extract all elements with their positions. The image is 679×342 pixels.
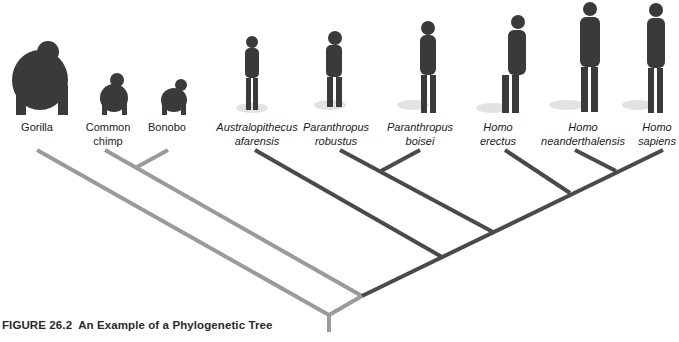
label-line1: Paranthropus: [303, 120, 369, 134]
paranthropus-boisei-illustration: [397, 21, 436, 113]
label-line1: Australopithecus: [216, 120, 297, 134]
common-chimp-illustration: [100, 73, 128, 115]
label-homo-erectus: Homo erectus: [480, 120, 516, 148]
figure-caption: FIGURE 26.2An Example of a Phylogenetic …: [2, 319, 273, 331]
label-line2: boisei: [387, 134, 453, 148]
label-homo-sapiens: Homo sapiens: [638, 120, 676, 148]
species-illustrations: [0, 0, 679, 120]
label-line1: Homo: [541, 120, 625, 134]
homo-erectus-illustration: [476, 15, 526, 113]
homo-sapiens-illustration: [622, 3, 665, 113]
label-gorilla: Gorilla: [21, 120, 53, 134]
paranthropus-robustus-illustration: [314, 31, 346, 110]
branch-common-chimp: [105, 150, 362, 296]
phylogenetic-tree-figure: Gorilla Common chimp Bonobo Australopith…: [0, 0, 679, 342]
label-line1: Homo: [480, 120, 516, 134]
label-line1: Homo: [638, 120, 676, 134]
label-common-chimp: Common chimp: [86, 120, 131, 148]
gorilla-illustration: [12, 41, 68, 115]
label-line1: Paranthropus: [387, 120, 453, 134]
label-line2: sapiens: [638, 134, 676, 148]
branch-homo-neanderthalensis: [575, 150, 616, 171]
label-line2: neanderthalensis: [541, 134, 625, 148]
caption-title: An Example of a Phylogenetic Tree: [78, 319, 272, 331]
branch-gorilla: [37, 150, 329, 315]
label-australopithecus-afarensis: Australopithecus afarensis: [216, 120, 297, 148]
australopithecus-illustration: [236, 36, 268, 113]
label-bonobo: Bonobo: [148, 120, 186, 134]
branch-homo-erectus: [505, 150, 570, 193]
branch-hominin-main: [362, 150, 663, 296]
branch-paranthropus-robustus: [340, 150, 493, 232]
label-line1: Common: [86, 120, 131, 134]
label-homo-neanderthalensis: Homo neanderthalensis: [541, 120, 625, 148]
label-paranthropus-robustus: Paranthropus robustus: [303, 120, 369, 148]
homo-neanderthalensis-illustration: [549, 2, 600, 112]
branch-root-to-hominini: [329, 296, 362, 315]
label-line2: erectus: [480, 134, 516, 148]
branch-bonobo: [137, 150, 168, 167]
branch-paranthropus-boisei: [381, 150, 420, 171]
label-paranthropus-boisei: Paranthropus boisei: [387, 120, 453, 148]
label-line1: Bonobo: [148, 120, 186, 134]
label-line2: robustus: [303, 134, 369, 148]
bonobo-illustration: [161, 79, 187, 115]
branch-australopithecus: [255, 150, 442, 257]
label-line1: Gorilla: [21, 120, 53, 134]
label-line2: chimp: [86, 134, 131, 148]
label-line2: afarensis: [216, 134, 297, 148]
caption-number: FIGURE 26.2: [2, 319, 72, 331]
